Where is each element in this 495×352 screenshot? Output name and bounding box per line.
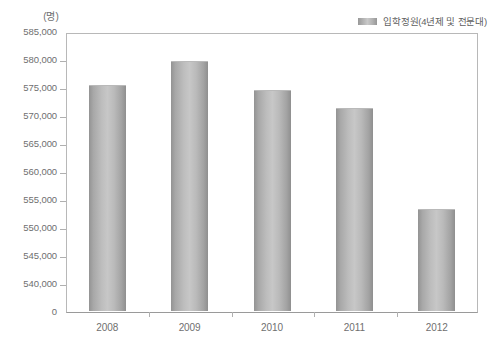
bar-chart: (명) 입학정원(4년제 및 전문대) 585,000580,000575,00…	[0, 0, 495, 352]
legend-swatch-icon	[358, 18, 377, 25]
y-axis-tick-label: 540,000	[23, 278, 57, 289]
y-axis-tick-label: 0	[52, 306, 57, 317]
y-axis-tick-label: 550,000	[23, 222, 57, 233]
x-axis-tick-mark	[232, 312, 233, 317]
y-axis-tick-label: 575,000	[23, 82, 57, 93]
y-axis-tick-label: 580,000	[23, 54, 57, 65]
bar	[418, 209, 455, 311]
y-axis-tick-label: 560,000	[23, 166, 57, 177]
plot-area	[66, 33, 478, 313]
x-axis-tick-label: 2011	[313, 322, 395, 333]
y-axis-unit-label: (명)	[28, 8, 74, 23]
y-axis-tick-label: 545,000	[23, 250, 57, 261]
x-axis-tick-label: 2008	[66, 322, 148, 333]
legend-entry-label: 입학정원(4년제 및 전문대)	[383, 14, 487, 28]
bar	[171, 61, 208, 311]
x-axis-tick-label: 2010	[231, 322, 313, 333]
x-axis-tick-mark	[149, 312, 150, 317]
x-axis-tick-label: 2012	[396, 322, 478, 333]
bar	[336, 108, 373, 311]
x-axis-tick-mark	[397, 312, 398, 317]
y-axis-tick-label: 585,000	[23, 26, 57, 37]
bar	[89, 85, 126, 311]
y-axis-tick-label: 570,000	[23, 110, 57, 121]
chart-legend: 입학정원(4년제 및 전문대)	[358, 14, 487, 28]
y-axis-tick-mark	[60, 313, 66, 314]
y-axis-tick-label: 555,000	[23, 194, 57, 205]
y-axis-tick-label: 565,000	[23, 138, 57, 149]
bar	[254, 90, 291, 311]
x-axis-tick-mark	[314, 312, 315, 317]
x-axis-tick-label: 2009	[148, 322, 230, 333]
